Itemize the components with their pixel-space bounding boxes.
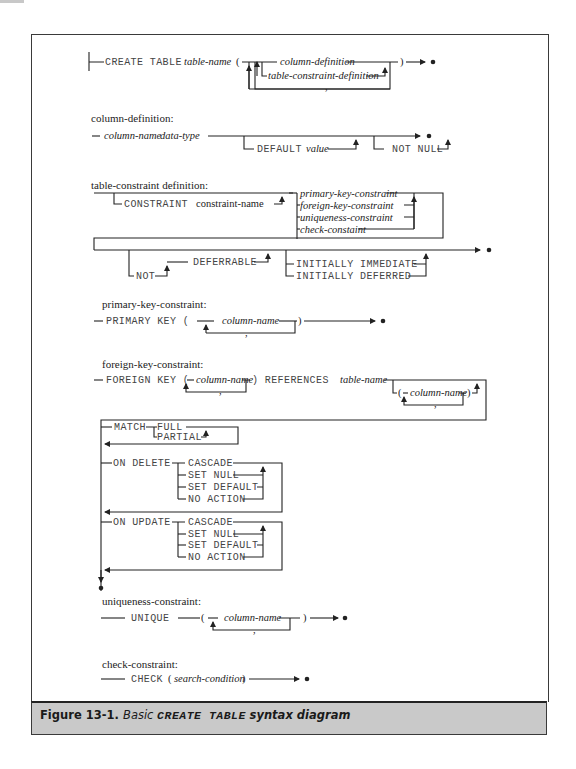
default-keyword: DEFAULT [257,144,302,155]
foreign-key-constraint-diagram: foreign-key-constraint: FOREIGN KEY ( co… [94,358,486,591]
separator-comma: , [245,327,248,338]
table-constraint-definition-label: table-constraint-definition [268,70,379,81]
on-update-no-action: NO ACTION [188,552,246,563]
close-paren: ) [400,56,404,68]
unique-keyword: UNIQUE [131,613,169,624]
option-check-constraint: check-constaint [300,224,367,235]
open-paren: ( [168,673,172,685]
deferrable-keyword: DEFERRABLE [193,257,257,268]
section-heading: check-constraint: [102,658,178,670]
not-keyword: NOT [136,271,155,282]
close-paren: ) [303,612,307,624]
on-update-set-default: SET DEFAULT [188,540,258,551]
open-paren: ( [236,56,240,68]
syntax-diagram: CREATE TABLE table-name ( column-definit… [0,0,576,769]
separator-comma: , [325,81,328,92]
open-paren: ( [201,612,205,624]
figure-label: Figure 13-1. [40,708,119,722]
column-name-label: column-name [222,315,279,326]
match-partial: PARTIAL [157,432,202,443]
section-heading: foreign-key-constraint: [102,358,203,370]
caption-suffix: syntax diagram [250,708,351,722]
on-delete-cascade: CASCADE [188,458,233,469]
option-foreign-key-constraint: foreign-key-constraint [300,200,395,211]
create-table-diagram: CREATE TABLE table-name ( column-definit… [89,52,435,92]
on-update-keyword: ON UPDATE [113,517,171,528]
check-keyword: CHECK [131,674,163,685]
separator-comma: , [219,385,222,396]
table-name-label: table-name [340,374,388,385]
separator-comma: , [253,624,256,635]
on-delete-keyword: ON DELETE [113,458,171,469]
figure-caption-text: Basic CREATE TABLE syntax diagram [123,708,350,722]
create-table-keyword: CREATE TABLE [105,57,182,68]
end-dot [431,60,436,65]
ref-open-paren: ( [398,387,402,399]
caption-prefix: Basic [123,708,153,722]
on-delete-no-action: NO ACTION [188,494,246,505]
on-delete-set-default: SET DEFAULT [188,482,258,493]
column-name-label: column-name [224,612,281,623]
check-constraint-diagram: check-constraint: CHECK ( search-conditi… [101,658,309,685]
foreign-key-keyword: FOREIGN KEY ( [106,375,189,386]
figure-caption: Figure 13-1. Basic CREATE TABLE syntax d… [31,701,547,735]
default-value-label: value [306,143,329,154]
ref-column-name-label: column-name [410,387,467,398]
not-null-keyword: NOT NULL [392,144,443,155]
close-paren: ) [242,673,246,685]
column-definition-label: column-definition [280,56,355,67]
section-heading: primary-key-constraint: [102,298,206,310]
column-definition-diagram: column-definition: column-name data-type… [91,112,448,155]
caption-keyword: CREATE TABLE [157,709,246,722]
column-name-label: column-name [104,130,161,141]
on-update-cascade: CASCADE [188,517,233,528]
table-constraint-definition-diagram: table-constraint definition: CONSTRAINT … [91,179,491,282]
initially-deferred-keyword: INITIALLY DEFERRED [296,271,411,282]
ref-close-paren: ) [467,387,471,399]
section-heading: table-constraint definition: [91,179,208,191]
on-update-set-null: SET NULL [188,529,239,540]
separator-comma: , [434,398,437,409]
references-keyword: ) REFERENCES [252,375,329,386]
on-delete-set-null: SET NULL [188,470,239,481]
constraint-keyword: CONSTRAINT [124,199,188,210]
section-heading: uniqueness-constraint: [102,595,201,607]
option-primary-key-constraint: primary-key-constraint [299,188,398,199]
search-condition-label: search-condition [174,673,245,684]
table-name-label: table-name [184,56,232,67]
data-type-label: data-type [160,130,200,141]
section-heading: column-definition: [91,112,173,124]
uniqueness-constraint-diagram: uniqueness-constraint: UNIQUE ( column-n… [101,595,347,635]
close-paren: ) [298,315,302,327]
initially-immediate-keyword: INITIALLY IMMEDIATE [296,259,418,270]
option-uniqueness-constraint: uniqueness-constraint [300,212,394,223]
primary-key-keyword: PRIMARY KEY ( [106,316,189,327]
constraint-name-label: constraint-name [196,198,264,209]
match-keyword: MATCH [114,422,146,433]
primary-key-constraint-diagram: primary-key-constraint: PRIMARY KEY ( co… [94,298,385,338]
